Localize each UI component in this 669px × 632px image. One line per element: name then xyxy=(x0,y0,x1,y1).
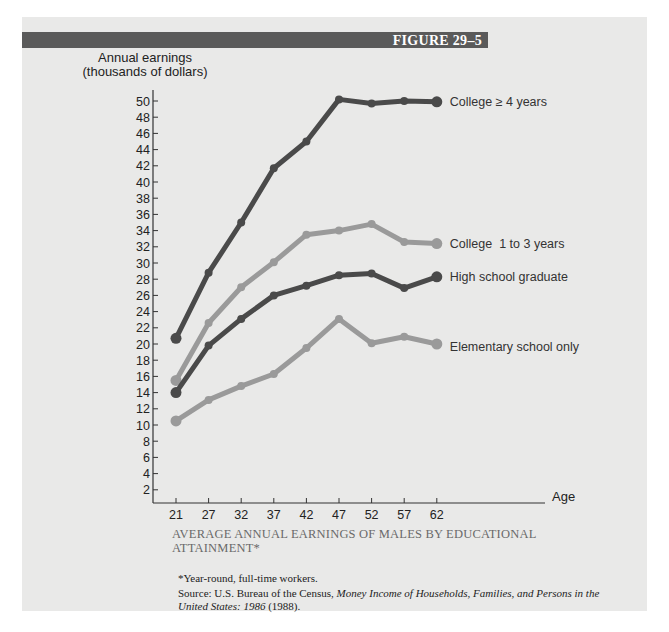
data-point xyxy=(237,219,245,227)
series-label: College ≥ 4 years xyxy=(450,95,547,109)
x-tick-label: 21 xyxy=(169,508,183,522)
series-line xyxy=(176,99,437,338)
y-tick-label: 46 xyxy=(136,127,150,141)
data-point xyxy=(270,370,278,378)
x-tick-label: 57 xyxy=(397,508,411,522)
x-tick-label: 32 xyxy=(234,508,248,522)
y-tick-label: 38 xyxy=(136,192,150,206)
x-tick-label: 27 xyxy=(202,508,216,522)
data-point xyxy=(368,270,376,278)
y-tick-label: 24 xyxy=(136,305,150,319)
y-tick-label: 16 xyxy=(136,370,150,384)
data-point xyxy=(270,291,278,299)
y-tick-label: 34 xyxy=(136,224,150,238)
data-point xyxy=(302,138,310,146)
x-tick-label: 62 xyxy=(430,508,444,522)
data-point xyxy=(431,339,442,350)
y-tick-label: 14 xyxy=(136,386,150,400)
data-point xyxy=(270,164,278,172)
y-tick-label: 18 xyxy=(136,354,150,368)
data-point xyxy=(335,315,343,323)
y-tick-label: 50 xyxy=(136,95,150,109)
data-point xyxy=(302,344,310,352)
data-point xyxy=(302,231,310,239)
x-tick-label: 37 xyxy=(267,508,281,522)
data-point xyxy=(431,271,442,282)
y-tick-label: 48 xyxy=(136,111,150,125)
x-tick-label: 52 xyxy=(365,508,379,522)
series-line xyxy=(176,224,437,380)
data-point xyxy=(270,258,278,266)
series-label: Elementary school only xyxy=(450,340,580,354)
data-point xyxy=(400,333,408,341)
data-point xyxy=(237,283,245,291)
x-tick-label: 42 xyxy=(299,508,313,522)
y-tick-label: 36 xyxy=(136,208,150,222)
series-label: High school graduate xyxy=(450,270,568,284)
y-tick-label: 44 xyxy=(136,143,150,157)
data-point xyxy=(335,271,343,279)
y-tick-label: 42 xyxy=(136,159,150,173)
data-point xyxy=(368,220,376,228)
y-tick-label: 28 xyxy=(136,273,150,287)
figure-caption: AVERAGE ANNUAL EARNINGS OF MALES BY EDUC… xyxy=(172,527,612,555)
data-point xyxy=(171,387,182,398)
data-point xyxy=(335,227,343,235)
x-axis-title: Age xyxy=(552,489,575,504)
x-tick-label: 47 xyxy=(332,508,346,522)
y-tick-label: 10 xyxy=(136,419,150,433)
y-tick-label: 26 xyxy=(136,289,150,303)
y-tick-label: 12 xyxy=(136,402,150,416)
source-prefix: Source: U.S. Bureau of the Census, xyxy=(178,587,337,599)
y-tick-label: 22 xyxy=(136,321,150,335)
y-tick-label: 2 xyxy=(143,483,150,497)
series-label: College 1 to 3 years xyxy=(450,237,565,251)
data-point xyxy=(205,342,213,350)
data-point xyxy=(205,269,213,277)
y-tick-label: 20 xyxy=(136,338,150,352)
data-point xyxy=(400,238,408,246)
data-point xyxy=(400,97,408,105)
data-point xyxy=(205,319,213,327)
footnote: *Year-round, full-time workers. xyxy=(178,572,318,584)
series-line xyxy=(176,274,437,393)
y-tick-label: 4 xyxy=(143,467,150,481)
y-tick-label: 32 xyxy=(136,240,150,254)
data-point xyxy=(171,333,182,344)
y-tick-label: 6 xyxy=(143,451,150,465)
series-line xyxy=(176,319,437,421)
data-point xyxy=(335,95,343,103)
data-point xyxy=(368,339,376,347)
data-point xyxy=(431,238,442,249)
data-point xyxy=(400,284,408,292)
source-suffix: (1988). xyxy=(265,600,300,612)
data-point xyxy=(302,282,310,290)
y-tick-label: 8 xyxy=(143,435,150,449)
data-point xyxy=(368,99,376,107)
data-point xyxy=(431,96,442,107)
source-citation: Source: U.S. Bureau of the Census, Money… xyxy=(178,587,618,613)
y-tick-label: 30 xyxy=(136,257,150,271)
data-point xyxy=(171,415,182,426)
data-point xyxy=(237,382,245,390)
data-point xyxy=(205,396,213,404)
data-point xyxy=(237,315,245,323)
y-tick-label: 40 xyxy=(136,176,150,190)
